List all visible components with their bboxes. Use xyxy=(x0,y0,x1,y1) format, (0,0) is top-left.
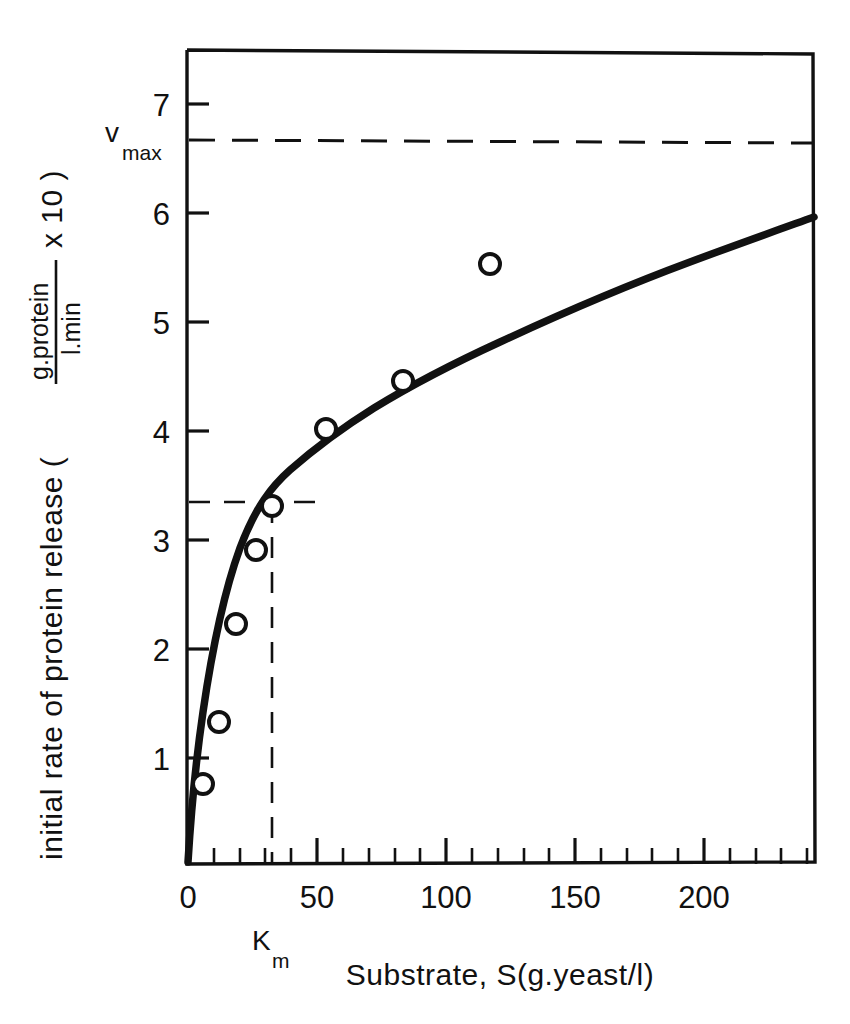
y-tick-label: 6 xyxy=(153,197,170,232)
x-tick-labels: 0 50 100 150 200 xyxy=(179,880,729,915)
y-axis-title-suffix: x 10 ) xyxy=(35,170,68,248)
vmax-label: v max xyxy=(105,117,162,164)
y-tick-label: 2 xyxy=(153,633,170,668)
y-tick-label: 7 xyxy=(153,88,170,123)
y-tick-labels: 1 2 3 4 5 6 7 xyxy=(153,88,170,777)
y-axis-title-text: initial rate of protein release ( xyxy=(35,457,68,860)
x-tick-label: 150 xyxy=(549,880,601,915)
data-point xyxy=(246,540,266,560)
vmax-line xyxy=(189,140,813,143)
y-tick-label: 5 xyxy=(153,306,170,341)
vmax-label-sub: max xyxy=(122,141,162,164)
x-tick-label: 200 xyxy=(678,880,730,915)
km-label-sub: m xyxy=(272,949,290,972)
data-point xyxy=(262,496,282,516)
michaelis-menten-plot: 1 2 3 4 5 6 7 0 50 100 150 200 v max K m xyxy=(0,0,850,1024)
y-axis-title: initial rate of protein release ( g.prot… xyxy=(25,170,85,860)
data-point xyxy=(480,254,500,274)
y-axis-title-numerator: g.protein xyxy=(25,283,53,380)
y-tick-label: 4 xyxy=(153,415,170,450)
km-label: K m xyxy=(252,925,290,972)
svg-text:Substrate, S(g.yeast/l): Substrate, S(g.yeast/l) xyxy=(346,958,654,991)
x-tick-label: 100 xyxy=(420,880,472,915)
y-axis-ticks xyxy=(187,104,209,758)
data-point xyxy=(209,712,229,732)
y-axis-title-denominator: l.min xyxy=(57,302,85,355)
data-point xyxy=(393,371,413,391)
y-tick-label: 3 xyxy=(153,524,170,559)
plot-frame xyxy=(187,50,815,864)
fitted-curve xyxy=(188,217,814,862)
x-tick-label: 0 xyxy=(179,880,196,915)
data-point xyxy=(316,419,336,439)
y-tick-label: 1 xyxy=(153,742,170,777)
chart-figure: 1 2 3 4 5 6 7 0 50 100 150 200 v max K m xyxy=(0,0,850,1024)
km-label-main: K xyxy=(252,925,271,956)
x-axis-title: Substrate, S(g.yeast/l) xyxy=(346,958,654,991)
x-tick-label: 50 xyxy=(300,880,334,915)
data-point xyxy=(193,774,213,794)
data-points xyxy=(193,254,500,794)
data-point xyxy=(226,614,246,634)
vmax-label-main: v xyxy=(105,117,119,148)
